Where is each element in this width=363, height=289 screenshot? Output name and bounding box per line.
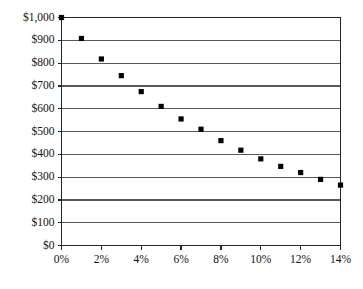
data-point — [338, 182, 343, 187]
data-point — [99, 56, 104, 61]
x-axis-tick-label: 8% — [213, 254, 228, 266]
y-axis-tick-label: $500 — [0, 126, 55, 138]
x-axis-tick-label: 2% — [94, 254, 109, 266]
data-point — [238, 148, 243, 153]
y-axis-tick-label: $700 — [0, 80, 55, 92]
y-axis-tick-label: $800 — [0, 57, 55, 69]
x-axis-tick-label: 6% — [173, 254, 188, 266]
data-point — [139, 89, 144, 94]
y-axis-tick-label: $600 — [0, 103, 55, 115]
y-axis-tick-label: $100 — [0, 217, 55, 229]
x-axis-tick-label: 14% — [330, 254, 351, 266]
data-point — [59, 15, 64, 20]
x-axis-tick-label: 10% — [250, 254, 271, 266]
data-point — [258, 156, 263, 161]
data-point — [318, 177, 323, 182]
data-point — [178, 116, 183, 121]
data-point — [119, 73, 124, 78]
data-point — [159, 104, 164, 109]
x-axis-tick-label: 0% — [54, 254, 69, 266]
y-axis-tick-label: $300 — [0, 171, 55, 183]
y-axis-tick-label: $400 — [0, 149, 55, 161]
scatter-chart: $0$100$200$300$400$500$600$700$800$900$1… — [0, 0, 363, 289]
data-point — [79, 36, 84, 41]
y-axis-tick-label: $200 — [0, 194, 55, 206]
x-axis-tick-label: 4% — [134, 254, 149, 266]
data-point — [218, 138, 223, 143]
y-axis-tick-label: $0 — [0, 240, 55, 252]
y-axis-tick-label: $1,000 — [0, 12, 55, 24]
data-point — [198, 127, 203, 132]
data-point — [278, 164, 283, 169]
y-axis-tick-label: $900 — [0, 35, 55, 47]
x-axis-tick-label: 12% — [290, 254, 311, 266]
data-point — [298, 170, 303, 175]
